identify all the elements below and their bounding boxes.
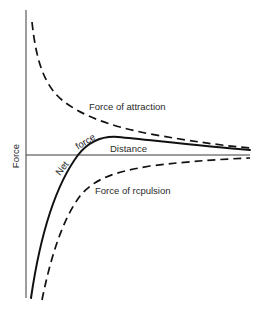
net-label: Net (53, 159, 71, 178)
repulsion-curve (42, 158, 250, 300)
attraction-curve (32, 22, 250, 148)
repulsion-label: Force of rcpulsion (95, 185, 171, 196)
y-axis-label: Force (10, 144, 21, 168)
x-axis-label: Distance (110, 143, 147, 154)
attraction-label: Force of attraction (89, 101, 166, 112)
force-distance-diagram: Force Distance Force of attraction Force… (0, 0, 262, 310)
